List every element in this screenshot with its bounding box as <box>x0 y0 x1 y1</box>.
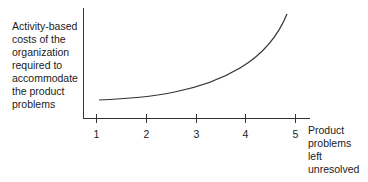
x-axis-label: Product problems left unresolved <box>308 124 359 176</box>
cost-curve <box>99 14 287 100</box>
x-axis-label-line: unresolved <box>308 163 359 176</box>
x-tick-label: 4 <box>243 128 249 140</box>
x-tick-label: 3 <box>194 128 200 140</box>
x-tick-label: 5 <box>293 128 299 140</box>
x-tick-label: 1 <box>94 128 100 140</box>
x-axis-label-line: problems <box>308 137 359 150</box>
x-tick-label: 2 <box>144 128 150 140</box>
x-axis-label-line: Product <box>308 124 359 137</box>
x-tick-labels: 1 2 3 4 5 <box>94 128 299 140</box>
x-axis-label-line: left <box>308 150 359 163</box>
